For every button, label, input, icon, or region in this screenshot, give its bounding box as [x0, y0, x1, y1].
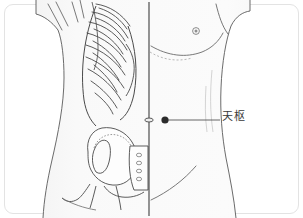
- nipple-marker: [193, 28, 200, 35]
- acupoint-label-tianshu: 天枢: [222, 111, 245, 123]
- sacrum: [129, 146, 148, 190]
- umbilicus-marker: [145, 118, 153, 122]
- anatomy-artwork: [0, 0, 303, 218]
- illustration-canvas: 天枢: [0, 0, 303, 218]
- torso-body: [0, 0, 303, 218]
